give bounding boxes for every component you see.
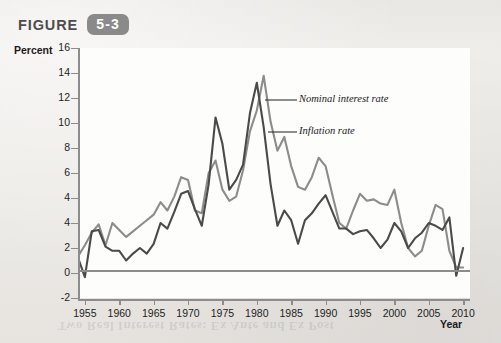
y-axis-tick-label: 14 xyxy=(40,66,70,78)
y-axis-tick-label: -2 xyxy=(40,291,70,303)
x-axis-tick xyxy=(463,299,464,305)
figure-number-badge: 5-3 xyxy=(87,14,129,35)
figure-header: FIGURE 5-3 xyxy=(18,14,129,35)
x-axis-tick xyxy=(188,299,189,305)
x-axis-tick xyxy=(291,299,292,305)
x-axis-tick xyxy=(429,299,430,305)
y-axis-tick xyxy=(71,98,78,99)
y-axis-tick xyxy=(71,148,78,149)
annotation-inflation-rate: Inflation rate xyxy=(299,125,355,136)
y-axis-tick-label: 8 xyxy=(40,141,70,153)
y-axis-tick xyxy=(71,173,78,174)
y-axis-tick xyxy=(71,123,78,124)
y-axis-line xyxy=(78,48,80,300)
y-axis-tick xyxy=(71,223,78,224)
zero-baseline xyxy=(78,270,470,271)
x-axis-tick xyxy=(360,299,361,305)
series-line-inflation-rate xyxy=(78,83,463,277)
y-axis-tick-label: 0 xyxy=(40,266,70,278)
y-axis-tick xyxy=(71,73,78,74)
x-axis-tick xyxy=(222,299,223,305)
figure-label: FIGURE xyxy=(18,17,78,33)
y-axis-tick xyxy=(71,248,78,249)
x-axis-tick xyxy=(154,299,155,305)
y-axis-tick xyxy=(71,48,78,49)
x-axis-tick xyxy=(119,299,120,305)
y-axis-tick xyxy=(71,198,78,199)
x-axis-tick-label: 2010 xyxy=(441,307,485,319)
chart-plot-area xyxy=(78,48,470,298)
y-axis-tick xyxy=(71,298,78,299)
y-axis-tick-label: 4 xyxy=(40,191,70,203)
y-axis-tick-label: 16 xyxy=(40,41,70,53)
x-axis-tick xyxy=(394,299,395,305)
x-axis-tick xyxy=(326,299,327,305)
x-axis-tick xyxy=(85,299,86,305)
chart-lines-svg xyxy=(78,48,470,298)
x-axis-title: Year xyxy=(440,318,462,330)
y-axis-tick-label: 10 xyxy=(40,116,70,128)
y-axis-tick xyxy=(71,273,78,274)
scanned-page-background: FIGURE 5-3 Percent Year Nominal interest… xyxy=(0,0,501,343)
y-axis-tick-label: 4 xyxy=(40,216,70,228)
x-axis-line xyxy=(78,299,470,301)
y-axis-tick-label: 12 xyxy=(40,91,70,103)
y-axis-tick-label: 2 xyxy=(40,241,70,253)
y-axis-tick-label: 6 xyxy=(40,166,70,178)
x-axis-tick xyxy=(257,299,258,305)
page-bleed-through-text: Two Real Interest Rates: Ex Ante and Ex … xyxy=(58,318,388,334)
annotation-nominal-interest-rate: Nominal interest rate xyxy=(299,93,388,104)
